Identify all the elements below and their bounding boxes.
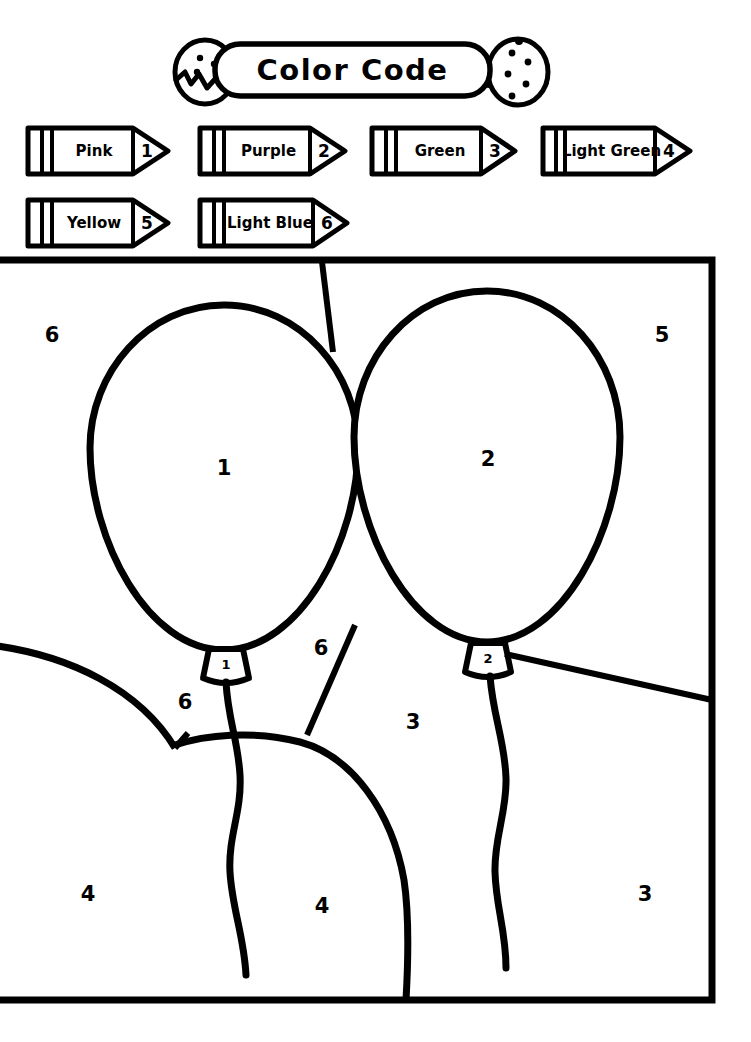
region-number: 1 — [217, 456, 232, 480]
hill-center-arc — [175, 735, 408, 1000]
region-number: 4 — [315, 894, 330, 918]
region-number: 1 — [221, 657, 230, 672]
hill-left-arc — [0, 645, 175, 748]
region-number: 3 — [638, 882, 653, 906]
worksheet-page: Color Code — [0, 0, 751, 1042]
region-number: 6 — [45, 323, 60, 347]
region-number: 4 — [81, 882, 96, 906]
right-balloon-string — [490, 676, 506, 968]
divider-right-diagonal — [505, 654, 712, 700]
region-number: 6 — [178, 690, 193, 714]
left-balloon-string — [226, 682, 246, 975]
region-number: 6 — [314, 636, 329, 660]
divider-top-vertical — [322, 262, 333, 352]
region-number: 2 — [483, 651, 492, 666]
region-number: 5 — [655, 323, 670, 347]
region-number: 3 — [406, 710, 421, 734]
region-number: 2 — [481, 447, 496, 471]
